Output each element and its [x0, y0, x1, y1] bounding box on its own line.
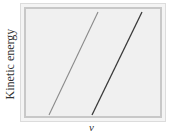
plot-lines — [0, 0, 171, 137]
series-line-2 — [92, 12, 142, 115]
x-axis-label: v — [89, 121, 94, 133]
series-line-1 — [49, 12, 98, 115]
y-axis-label: Kinetic energy — [3, 14, 19, 114]
